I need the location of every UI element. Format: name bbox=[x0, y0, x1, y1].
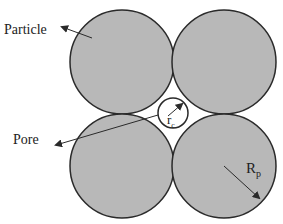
particle-radius-label: Rp bbox=[246, 160, 261, 179]
particle-radius-symbol: R bbox=[246, 160, 256, 176]
particle-top-right bbox=[172, 10, 276, 114]
particle-top-left bbox=[70, 10, 174, 114]
pore-label: Pore bbox=[13, 132, 39, 148]
particle-bottom-left bbox=[70, 114, 174, 218]
particle-label: Particle bbox=[4, 22, 47, 38]
pore-radius-subscript: c bbox=[171, 121, 175, 130]
particle-radius-subscript: p bbox=[256, 168, 261, 179]
pore-radius-label: rc bbox=[167, 112, 175, 130]
